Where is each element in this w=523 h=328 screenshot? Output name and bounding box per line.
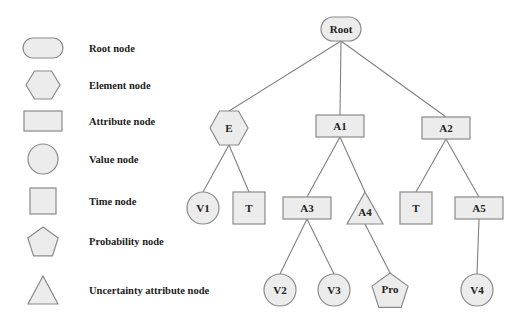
legend-label: Probability node	[89, 236, 164, 247]
xml-tree-diagram: Root nodeElement nodeAttribute nodeValue…	[0, 0, 523, 328]
legend-root-icon	[23, 38, 63, 58]
node-v2: V2	[264, 274, 296, 306]
node-label: E	[225, 122, 232, 134]
node-label: Pro	[382, 283, 399, 295]
edge-a2-t2	[416, 139, 446, 192]
node-label: A1	[333, 120, 346, 132]
node-pro: Pro	[372, 273, 408, 307]
node-label: T	[412, 202, 420, 214]
edge-a1-a4	[340, 137, 365, 192]
node-t2: T	[400, 192, 432, 224]
edge-a3-v3	[307, 219, 334, 274]
node-v1: V1	[187, 192, 219, 224]
edge-root-e	[229, 41, 341, 111]
edge-a5-v4	[477, 219, 479, 274]
edge-a3-v2	[280, 219, 307, 274]
node-label: V2	[273, 284, 287, 296]
tree-edges	[203, 41, 479, 274]
legend-label: Uncertainty attribute node	[89, 285, 209, 296]
legend-element-icon	[26, 71, 60, 99]
edge-root-a1	[340, 41, 341, 115]
legend-label: Root node	[89, 43, 135, 54]
node-v4: V4	[461, 274, 493, 306]
legend-uncertainty-icon	[28, 276, 58, 304]
legend-item-uncertainty: Uncertainty attribute node	[28, 276, 209, 304]
edge-root-a2	[341, 41, 446, 117]
node-label: T	[245, 202, 253, 214]
node-a2: A2	[422, 117, 470, 139]
node-label: A2	[439, 122, 453, 134]
legend-probability-icon	[28, 227, 58, 256]
node-label: V1	[196, 202, 209, 214]
node-a4: A4	[347, 192, 383, 224]
node-label: Root	[330, 23, 353, 35]
node-label: A5	[472, 202, 486, 214]
edge-e-v1	[203, 145, 229, 192]
edge-a4-pro	[365, 224, 390, 273]
tree-nodes: RootEA1A2V1TA3A4TA5V2V3ProV4	[187, 17, 503, 307]
legend-item-root: Root node	[23, 38, 135, 58]
node-t1: T	[233, 192, 265, 224]
legend-label: Time node	[89, 196, 137, 207]
node-a5: A5	[455, 197, 503, 219]
edge-e-t1	[229, 145, 249, 192]
legend-label: Attribute node	[89, 116, 156, 127]
edge-a1-a3	[307, 137, 340, 197]
legend-label: Value node	[89, 154, 139, 165]
legend-item-probability: Probability node	[28, 227, 164, 256]
legend-value-icon	[28, 144, 58, 174]
node-e: E	[210, 111, 248, 145]
node-a3: A3	[283, 197, 331, 219]
legend: Root nodeElement nodeAttribute nodeValue…	[23, 38, 209, 304]
node-v3: V3	[318, 274, 350, 306]
edge-a2-a5	[446, 139, 479, 197]
node-root: Root	[321, 17, 361, 41]
node-label: A3	[300, 202, 314, 214]
node-label: V4	[470, 284, 484, 296]
legend-item-value: Value node	[28, 144, 139, 174]
legend-time-icon	[30, 188, 56, 214]
legend-item-element: Element node	[26, 71, 151, 99]
node-a1: A1	[316, 115, 364, 137]
legend-item-time: Time node	[30, 188, 137, 214]
legend-item-attribute: Attribute node	[24, 111, 156, 131]
node-label: V3	[327, 284, 341, 296]
node-label: A4	[358, 206, 372, 218]
legend-attribute-icon	[24, 111, 62, 131]
legend-label: Element node	[89, 80, 151, 91]
